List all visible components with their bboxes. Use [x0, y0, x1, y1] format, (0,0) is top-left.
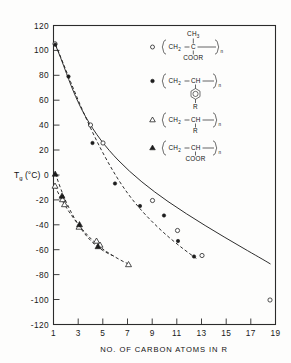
y-tick-label: -60 [36, 245, 49, 255]
data-point-open-circle [200, 253, 204, 257]
series-polyacrylate [52, 171, 115, 257]
legend-marker-filled-triangle [150, 145, 156, 150]
data-point-filled-circle [138, 204, 141, 207]
data-point-open-triangle [94, 238, 100, 243]
data-point-filled-circle [113, 182, 116, 185]
legend-unit-ch2: CH2 [169, 116, 182, 125]
data-point-filled-triangle [59, 193, 65, 198]
x-axis-ticks [54, 319, 276, 325]
data-point-filled-circle [67, 75, 70, 78]
data-point-open-circle [88, 123, 92, 127]
legend-unit-ch2: CH2 [169, 43, 182, 52]
legend-marker-open-triangle [150, 117, 156, 122]
x-tick-label: 5 [100, 328, 105, 338]
data-point-open-triangle [126, 262, 132, 267]
data-point-filled-circle [176, 239, 179, 242]
glass-transition-chart: 120 100 80 60 40 20 0 -20 -40 -60 -80 -1… [0, 0, 291, 363]
y-axis-title-units: (°C) [25, 170, 41, 180]
x-tick-label: 9 [150, 328, 155, 338]
y-tick-label: -40 [36, 220, 49, 230]
data-point-open-circle [268, 298, 272, 302]
x-tick-label: 13 [196, 328, 206, 338]
legend-unit-center: CH [191, 77, 201, 84]
legend-bottom-group: COOR [183, 54, 203, 61]
legend-entry-methacrylate[interactable]: CH2 C CH3 COOR n [151, 30, 224, 61]
plot-frame [54, 26, 276, 325]
y-tick-label: -120 [31, 320, 49, 330]
legend-bottom-group: R [193, 127, 198, 134]
y-tick-label: 0 [44, 170, 49, 180]
legend-entry-olefin[interactable]: CH2 CH R n [150, 113, 222, 134]
x-tick-label: 1 [51, 328, 56, 338]
data-point-filled-circle [162, 214, 165, 217]
legend-repeat-subscript: n [219, 150, 222, 155]
y-axis-title: Tg (°C) [14, 170, 40, 181]
series-line-polyacrylate [56, 174, 116, 257]
y-tick-label: 20 [39, 145, 49, 155]
legend-entry-styrene[interactable]: CH2 CH R n [151, 74, 222, 110]
series-line-poly-alpha-olefin [55, 186, 131, 265]
y-tick-label: -20 [36, 195, 49, 205]
x-tick-label: 7 [125, 328, 130, 338]
y-tick-label: 40 [39, 120, 49, 130]
figure-container: 120 100 80 60 40 20 0 -20 -40 -60 -80 -1… [0, 0, 291, 363]
x-tick-label: 17 [246, 328, 256, 338]
data-point-filled-circle [192, 255, 195, 258]
x-tick-label: 19 [270, 328, 280, 338]
data-point-open-triangle [52, 183, 58, 188]
y-tick-label: 60 [39, 95, 49, 105]
legend-unit-ch2: CH2 [169, 144, 182, 153]
legend-marker-filled-circle [151, 79, 155, 83]
data-point-open-circle [101, 141, 105, 145]
legend-repeat-subscript: n [219, 83, 222, 88]
legend-unit-ch2: CH2 [169, 77, 182, 86]
y-tick-label: 120 [34, 21, 49, 31]
x-tick-label: 3 [76, 328, 81, 338]
x-axis-title: NO. OF CARBON ATOMS IN R [100, 345, 228, 354]
y-tick-label: -80 [36, 270, 49, 280]
data-point-open-circle [175, 228, 179, 232]
legend-unit-center: CH [191, 116, 201, 123]
legend-bottom-group: R [193, 103, 198, 110]
bracket-left-icon [162, 74, 166, 88]
data-point-open-circle [150, 198, 154, 202]
data-point-filled-circle [54, 43, 57, 46]
bracket-left-icon [162, 40, 166, 54]
series-line-polymethacrylate [55, 44, 271, 264]
y-tick-label: 100 [34, 45, 49, 55]
legend-bottom-group: COOR [186, 155, 206, 162]
y-tick-label: -100 [31, 295, 49, 305]
x-axis-tick-labels: 1 3 5 7 9 11 13 15 17 19 [51, 328, 281, 338]
x-tick-label: 11 [172, 328, 181, 338]
svg-text:Tg (°C): Tg (°C) [14, 170, 40, 181]
y-tick-label: 80 [39, 70, 49, 80]
legend-unit-center: CH [191, 144, 201, 151]
legend-repeat-subscript: n [221, 49, 224, 54]
legend-entry-acrylate[interactable]: CH2 CH COOR n [150, 141, 222, 162]
legend-top-group: CH3 [187, 30, 200, 39]
legend-repeat-subscript: n [219, 122, 222, 127]
bracket-left-icon [162, 113, 166, 127]
bracket-left-icon [162, 141, 166, 155]
legend-marker-open-circle [151, 45, 155, 49]
legend-unit-center: C [191, 43, 196, 50]
x-tick-label: 15 [221, 328, 231, 338]
benzene-ring-icon [191, 89, 200, 100]
data-point-filled-circle [91, 141, 94, 144]
